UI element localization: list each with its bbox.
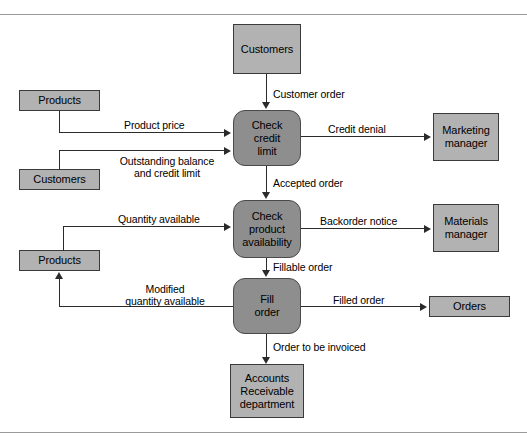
- connector-customer-order: [266, 74, 267, 103]
- arrowhead-order-to-be-invoiced: [262, 357, 270, 364]
- arrowhead-filled-order: [420, 303, 427, 311]
- connector-backorder-notice: [301, 228, 425, 229]
- connector-quantity-available-horizontal: [63, 226, 226, 227]
- store-customers-label: Customers: [33, 173, 85, 186]
- arrowhead-credit-denial: [424, 133, 431, 141]
- arrowhead-modified-quantity: [55, 272, 63, 279]
- connector-modified-quantity-vertical: [59, 279, 60, 306]
- entity-customers: Customers: [233, 24, 301, 74]
- entity-customers-label: Customers: [241, 43, 293, 56]
- connector-product-price-horizontal: [59, 132, 226, 133]
- bottom-divider-rule: [0, 432, 527, 433]
- entity-accounts-receivable-label: Accounts Receivable department: [240, 372, 295, 411]
- arrowhead-backorder-notice: [424, 225, 431, 233]
- flow-label-quantity-available: Quantity available: [118, 213, 200, 225]
- connector-accepted-order: [266, 166, 267, 193]
- arrowhead-outstanding-balance: [224, 147, 231, 155]
- connector-order-to-be-invoiced: [266, 334, 267, 358]
- flow-label-accepted-order: Accepted order: [273, 177, 343, 189]
- entity-materials-manager: Materials manager: [433, 204, 499, 252]
- arrowhead-product-price: [224, 129, 231, 137]
- top-divider-rule: [0, 14, 527, 15]
- arrowhead-accepted-order: [262, 192, 270, 199]
- process-check-product-availability: Check product availability: [233, 200, 301, 258]
- connector-outstanding-balance-vertical: [59, 150, 60, 170]
- flow-label-order-to-be-invoiced: Order to be invoiced: [273, 341, 366, 353]
- flow-label-filled-order: Filled order: [333, 294, 384, 306]
- store-orders: Orders: [429, 296, 510, 317]
- store-products-top-label: Products: [38, 94, 81, 107]
- connector-outstanding-balance-horizontal: [59, 150, 226, 151]
- store-orders-label: Orders: [453, 300, 486, 313]
- store-products-bottom-label: Products: [38, 254, 81, 267]
- entity-marketing-manager: Marketing manager: [433, 113, 499, 161]
- flow-label-fillable-order: Fillable order: [273, 261, 332, 273]
- connector-credit-denial: [301, 136, 425, 137]
- arrowhead-fillable-order: [262, 270, 270, 277]
- entity-accounts-receivable: Accounts Receivable department: [230, 364, 304, 418]
- process-fill-order-label: Fill order: [254, 293, 279, 319]
- flow-label-customer-order: Customer order: [273, 88, 345, 100]
- flow-label-modified-quantity-available: Modified quantity available: [104, 283, 226, 307]
- connector-filled-order: [301, 306, 421, 307]
- process-check-product-availability-label: Check product availability: [242, 210, 292, 249]
- process-check-credit-limit: Check credit limit: [233, 110, 301, 166]
- connector-product-price-vertical: [59, 111, 60, 133]
- arrowhead-quantity-available: [224, 223, 231, 231]
- entity-materials-manager-label: Materials manager: [444, 215, 488, 241]
- connector-quantity-available-vertical: [63, 226, 64, 251]
- arrowhead-customer-order: [262, 102, 270, 109]
- entity-marketing-manager-label: Marketing manager: [442, 124, 489, 150]
- store-products-bottom: Products: [19, 250, 100, 271]
- flow-label-credit-denial: Credit denial: [328, 123, 386, 135]
- process-check-credit-limit-label: Check credit limit: [252, 119, 283, 158]
- flow-label-product-price: Product price: [124, 119, 185, 131]
- data-flow-diagram: Customers Products Customers Products Or…: [0, 0, 527, 444]
- process-fill-order: Fill order: [233, 278, 301, 334]
- store-customers: Customers: [19, 169, 100, 190]
- store-products-top: Products: [19, 90, 100, 111]
- flow-label-outstanding-balance: Outstanding balance and credit limit: [108, 155, 226, 179]
- flow-label-backorder-notice: Backorder notice: [320, 215, 397, 227]
